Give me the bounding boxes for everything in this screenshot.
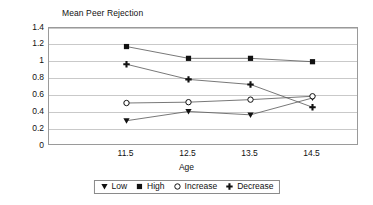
y-axis-tick-label: 1 [4,55,44,65]
data-point-marker [248,56,253,61]
x-axis-title: Age [0,162,373,172]
legend-entry[interactable]: Increase [173,182,218,191]
square-marker-icon [135,182,144,191]
x-axis-tick-label: 14.5 [292,148,332,158]
y-axis-tick-label: 0.2 [4,123,44,133]
plot-area [48,27,358,145]
triangle-down-marker-icon [99,182,108,191]
y-axis-tick-label: 0.8 [4,72,44,82]
series-layer [49,28,359,146]
chart-title: Mean Peer Rejection [62,8,143,18]
plus-marker-icon [225,182,234,191]
y-axis-tick-label: 0.4 [4,106,44,116]
y-axis-tick-label: 1.4 [4,22,44,32]
data-point-marker [247,81,253,87]
data-point-marker [124,100,129,105]
data-point-marker [186,99,191,104]
legend-entry[interactable]: Low [99,182,127,191]
data-point-marker [185,76,191,82]
data-point-marker [124,44,129,49]
legend-entry[interactable]: Decrease [225,182,273,191]
legend-label: Decrease [237,182,273,191]
circle-open-marker-icon [173,182,182,191]
legend-label: Low [111,182,127,191]
data-point-marker [248,97,253,102]
legend-label: High [147,182,164,191]
chart-container: Mean Peer Rejection 00.20.40.60.811.21.4… [0,0,373,205]
data-point-marker [309,104,315,110]
legend-entry[interactable]: High [135,182,164,191]
data-point-marker [310,94,315,99]
data-point-marker [123,118,129,124]
x-axis-tick-label: 11.5 [106,148,146,158]
legend-label: Increase [185,182,218,191]
data-point-marker [310,59,315,64]
chart-legend: LowHighIncreaseDecrease [93,180,279,194]
data-point-marker [247,112,253,118]
y-axis-tick-label: 1.2 [4,38,44,48]
x-axis-tick-label: 12.5 [168,148,208,158]
x-axis-tick-label: 13.5 [230,148,270,158]
y-axis-tick-label: 0.6 [4,89,44,99]
series-line [127,47,313,62]
data-point-marker [123,61,129,67]
y-axis-tick-label: 0 [4,140,44,150]
data-point-marker [186,56,191,61]
series-line [127,98,313,121]
